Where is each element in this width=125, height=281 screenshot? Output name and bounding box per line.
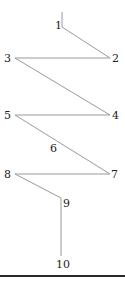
diagram-lines — [0, 0, 125, 281]
node-label-10: 10 — [56, 259, 70, 270]
zigzag-path-line — [15, 27, 110, 256]
bottom-rule-divider — [0, 275, 125, 277]
node-label-7: 7 — [111, 169, 118, 180]
node-label-4: 4 — [112, 110, 119, 121]
node-label-3: 3 — [4, 53, 11, 64]
node-label-2: 2 — [112, 53, 119, 64]
node-label-8: 8 — [4, 169, 11, 180]
node-label-6: 6 — [50, 143, 57, 154]
node-label-5: 5 — [4, 110, 11, 121]
node-label-9: 9 — [63, 198, 70, 209]
node-label-1: 1 — [55, 20, 62, 31]
zigzag-diagram: 1 2 3 4 5 6 7 8 9 10 — [0, 0, 125, 281]
